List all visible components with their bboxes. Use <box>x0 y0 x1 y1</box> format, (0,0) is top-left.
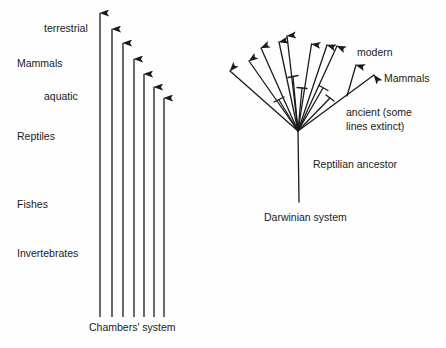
modern-branch <box>230 71 298 131</box>
label-terrestrial: terrestrial <box>44 22 88 35</box>
ancestor-stem <box>298 131 299 202</box>
evolution-diagram: terrestrial Mammals aquatic Reptiles Fis… <box>0 0 446 348</box>
label-reptilian-ancestor: Reptilian ancestor <box>313 158 397 171</box>
chambers-arrows <box>100 13 164 317</box>
darwinian-tree <box>230 36 374 202</box>
modern-branch <box>261 48 298 131</box>
label-fishes: Fishes <box>17 198 48 211</box>
extinct-bar <box>319 86 328 91</box>
caption-chambers: Chambers' system <box>89 321 176 334</box>
label-invertebrates: Invertebrates <box>17 247 78 260</box>
extinct-bar <box>297 88 307 89</box>
label-aquatic: aquatic <box>44 90 78 103</box>
label-ancient-2: lines extinct) <box>346 120 404 133</box>
label-modern: modern <box>357 46 393 59</box>
label-ancient-1: ancient (some <box>346 106 412 119</box>
label-reptiles: Reptiles <box>17 130 55 143</box>
caption-darwinian: Darwinian system <box>264 211 347 224</box>
label-mammals-left: Mammals <box>17 57 63 70</box>
label-mammals-right: Mammals <box>384 72 430 85</box>
